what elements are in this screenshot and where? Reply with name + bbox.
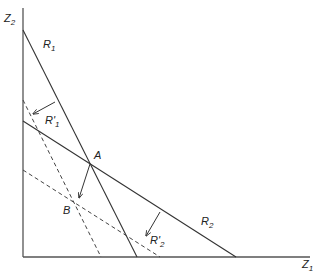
label-point-a: A [93,149,101,161]
x-axis-label: Z1 [301,258,313,273]
y-axis-label: Z2 [3,12,16,27]
label-r1-prime: R'1 [45,114,60,129]
line-r1-prime [23,100,101,257]
label-point-b: B [63,204,70,216]
arrow-a-to-b [79,164,90,198]
line-r1 [23,30,137,257]
line-r2-prime [23,170,160,257]
label-r2-prime: R'2 [150,234,165,249]
label-r1: R1 [43,38,55,53]
arrow-r1-shift [33,102,55,114]
line-r2 [23,121,236,257]
diagram-canvas: Z2 Z1 R1 R'1 R2 R'2 A B [0,0,322,278]
label-r2: R2 [201,215,214,230]
arrow-r2-shift [146,212,160,236]
